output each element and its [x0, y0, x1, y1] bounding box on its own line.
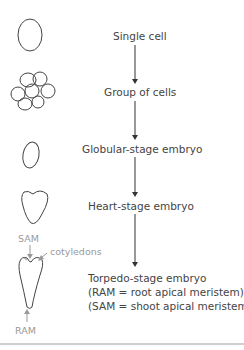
- single-cell-shape: [18, 19, 42, 51]
- stage-label-torpedo: Torpedo-stage embryo: [88, 272, 206, 284]
- torpedo-embryo-shape: [19, 257, 43, 308]
- annotation-ram: RAM: [15, 325, 36, 336]
- stage-label-group-of-cells: Group of cells: [104, 86, 176, 98]
- stage-label-single-cell: Single cell: [113, 30, 167, 42]
- note-sam: (SAM = shoot apical meristem): [88, 300, 244, 312]
- cell-group-shape: [11, 72, 55, 110]
- heart-embryo-shape: [22, 191, 48, 224]
- stage-label-globular: Globular-stage embryo: [82, 143, 202, 155]
- bottom-divider: [0, 343, 244, 345]
- annotation-sam: SAM: [18, 233, 39, 244]
- annotation-cotyledons: cotyledons: [50, 246, 102, 257]
- note-ram: (RAM = root apical meristem): [88, 286, 244, 298]
- globular-embryo-shape: [21, 141, 41, 169]
- stage-label-heart: Heart-stage embryo: [88, 200, 194, 212]
